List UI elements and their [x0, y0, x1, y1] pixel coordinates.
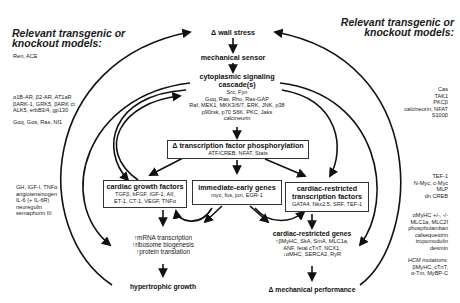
- model-item: βARK-1, GRK5, βARK ct: [13, 101, 75, 108]
- model-item: N-Myc, c-Myc: [414, 180, 448, 187]
- node-mechanical-performance: Δ mechanical performance: [254, 286, 370, 294]
- translation-line: ↑protein translation: [118, 248, 208, 255]
- arrow-tf-to-growth: [150, 158, 183, 175]
- cytoplasmic-line: Gαq, Ras, Rho, Ras-GAP: [170, 96, 304, 103]
- node-cardiac-restricted-genes: cardiac-restricted genes ↑βMyHC, SkA, Sm…: [262, 230, 362, 258]
- left-group-gproteins: Gαq, Gαs, Ras, Nf1: [13, 119, 62, 126]
- cardiac-tf-title-line2: transcription factors: [286, 193, 368, 201]
- model-item: PKCβ: [404, 99, 448, 106]
- growth-factors-title: cardiac growth factors: [104, 183, 186, 191]
- growth-factors-line: ET-1, CT-1, VEGF, TNFα: [104, 198, 186, 205]
- arrow-ieg-to-growth-loop: [176, 208, 212, 221]
- node-mechanical-sensor: mechanical sensor: [183, 54, 283, 62]
- left-heading-line2: knockout models:: [12, 38, 125, 48]
- model-item: α-Tm, MyBP-C: [408, 270, 448, 277]
- model-item: ALK5, erbB3/4, gp130: [13, 107, 75, 114]
- model-item: α1B-AR, β2-AR, AT1aR: [13, 94, 75, 101]
- model-item: semaphorin III: [16, 210, 57, 217]
- cardiac-tf-sub: GATA4, Nkx2.5, SRF, TEF-1: [286, 201, 368, 208]
- node-cardiac-growth-factors: cardiac growth factors TGFβ, bFGF, IGF-1…: [103, 180, 187, 208]
- model-item: TEF-1: [414, 173, 448, 180]
- cardiac-genes-line: ↓αMHC, SERCA2, RyR: [262, 251, 362, 258]
- cardiac-genes-title: cardiac-restricted genes: [262, 230, 362, 238]
- model-item: MLC1a, MLC2f: [408, 219, 448, 226]
- translation-line: ↑ribosome biogenesis: [118, 241, 208, 248]
- model-item: calsequestrin: [408, 232, 448, 239]
- left-group-growth: GH, IGF-I, TNFα angiotensinogen IL-6 (+ …: [16, 184, 57, 217]
- cytoplasmic-title-line2: cascade(s): [170, 81, 304, 89]
- cytoplasmic-line: p90rsk, p70 S6K, PKC, Jaks: [170, 109, 304, 116]
- right-group-hcm: HCM mutations: βMyHC, cTnT, α-Tm, MyBP-C: [408, 257, 448, 277]
- model-item: neuregulin: [16, 204, 57, 211]
- model-item: IL-6 (+ IL-6R): [16, 197, 57, 204]
- immediate-early-title: immediate-early genes: [193, 184, 281, 192]
- right-group-signaling: Cas TAK1 PKCβ calcineurin, NFAT S100β: [404, 86, 448, 119]
- model-item: MLP: [414, 186, 448, 193]
- model-item: HCM mutations:: [408, 257, 448, 264]
- node-tf-phosphorylation: Δ transcription factor phosphorylation A…: [167, 140, 309, 159]
- model-item: βMyHC, cTnT,: [408, 264, 448, 271]
- model-item: Gαq, Gαs, Ras, Nf1: [13, 119, 62, 126]
- model-item: tropomodulin: [408, 238, 448, 245]
- immediate-early-sub: myc, fos, jun, EGR-1: [193, 192, 281, 199]
- node-immediate-early-genes: immediate-early genes myc, fos, jun, EGR…: [192, 180, 282, 205]
- model-item: desmin: [408, 245, 448, 252]
- model-item: Cas: [404, 86, 448, 93]
- left-heading: Relevant transgenic or knockout models:: [12, 28, 125, 48]
- model-item: angiotensinogen: [16, 191, 57, 198]
- right-heading-line2: knockout models:: [341, 27, 454, 37]
- cytoplasmic-line: Src, Fyn: [170, 89, 304, 96]
- arrow-ieg-to-genes: [250, 206, 268, 222]
- node-wall-stress: Δ wall stress: [193, 29, 273, 37]
- model-item: TAK1: [404, 93, 448, 100]
- left-group-ren-ace: Ren, ACE: [13, 53, 38, 60]
- growth-factors-line: TGFβ, bFGF, IGF-1, AII,: [104, 191, 186, 198]
- cytoplasmic-line: calcineurin: [170, 115, 304, 122]
- node-cardiac-restricted-tf: cardiac-restricted transcription factors…: [285, 182, 369, 212]
- model-item: calcineurin, NFAT: [404, 106, 448, 113]
- model-item: GH, IGF-I, TNFα: [16, 184, 57, 191]
- node-hypertrophic-growth: hypertrophic growth: [115, 283, 211, 291]
- model-item: Ren, ACE: [13, 53, 38, 60]
- node-translation: ↑mRNA transcription ↑ribosome biogenesis…: [118, 234, 208, 256]
- tf-phosphorylation-sub: ATF/CREB, NFAT, Stats: [168, 150, 308, 157]
- cytoplasmic-line: Raf, MEK1, MKK3/6/7, ERK, JNK, p38: [170, 102, 304, 109]
- right-group-tf: TEF-1 N-Myc, c-Myc MLP dn CREB: [414, 173, 448, 199]
- model-item: S100β: [404, 112, 448, 119]
- cardiac-genes-line: ↑βMyHC, SkA, SmA, MLC1a,: [262, 238, 362, 245]
- model-item: phospholamban: [408, 225, 448, 232]
- right-group-contractile: αMyHC +/-, -/- MLC1a, MLC2f phospholamba…: [408, 212, 448, 252]
- arrow-tf-to-cardiactf: [265, 159, 305, 176]
- node-cytoplasmic-signaling: cytoplasmic signaling cascade(s) Src, Fy…: [170, 73, 304, 122]
- tf-phosphorylation-title: Δ transcription factor phosphorylation: [168, 142, 308, 150]
- model-item: αMyHC +/-, -/-: [408, 212, 448, 219]
- right-heading: Relevant transgenic or knockout models:: [341, 17, 454, 37]
- model-item: dn CREB: [414, 193, 448, 200]
- left-group-receptors: α1B-AR, β2-AR, AT1aR βARK-1, GRK5, βARK …: [13, 94, 75, 114]
- translation-line: ↑mRNA transcription: [118, 234, 208, 241]
- cardiac-genes-line: ANF, fetal cTnT, NCX1;: [262, 245, 362, 252]
